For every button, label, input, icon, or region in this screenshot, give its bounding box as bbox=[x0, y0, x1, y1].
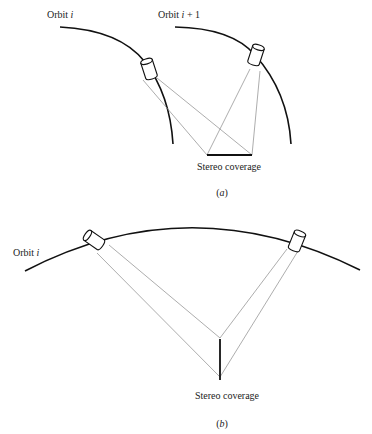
camera-icon bbox=[82, 229, 106, 251]
figure-a: Orbit i Orbit i + 1 Stereo coverage (a) bbox=[47, 9, 291, 199]
ray-line bbox=[207, 69, 250, 155]
camera-icon bbox=[288, 229, 307, 253]
stereo-coverage-label: Stereo coverage bbox=[195, 390, 260, 401]
orbit-i-arc bbox=[60, 27, 173, 144]
orbit-i-label: Orbit i bbox=[47, 9, 74, 20]
stereo-coverage-diagram: Orbit i Orbit i + 1 Stereo coverage (a) … bbox=[0, 0, 372, 434]
orbit-i-label: Orbit i bbox=[13, 247, 40, 258]
orbit-i-plus-1-arc bbox=[175, 27, 291, 144]
figure-b-caption: (b) bbox=[216, 418, 228, 430]
figure-b: Orbit i Stereo coverage (b) bbox=[13, 228, 360, 430]
orbit-i-arc bbox=[25, 228, 360, 271]
ray-line bbox=[220, 249, 287, 338]
ray-line bbox=[143, 80, 207, 155]
orbit-i-plus-1-label: Orbit i + 1 bbox=[158, 9, 200, 20]
camera-icon bbox=[140, 57, 158, 81]
ray-line bbox=[109, 245, 220, 338]
ray-line bbox=[220, 251, 298, 377]
ray-line bbox=[97, 253, 220, 377]
ray-line bbox=[157, 78, 252, 155]
stereo-coverage-label: Stereo coverage bbox=[197, 161, 262, 172]
figure-a-caption: (a) bbox=[216, 187, 228, 199]
ray-line bbox=[252, 71, 260, 155]
